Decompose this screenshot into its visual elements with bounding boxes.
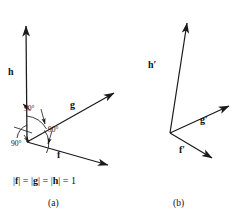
panel-a-graphics (14, 26, 114, 165)
vector-h-prime-line (170, 23, 187, 133)
vector-label-h: h (8, 67, 14, 77)
vector-figure: h g f 90° 90° 90° h′ g′ f′ |f| = |g| = |… (0, 0, 237, 220)
panel-b-graphics (170, 23, 229, 158)
figure-canvas (0, 0, 237, 220)
vector-f-prime-line (170, 133, 212, 158)
angle-cross-tick (14, 127, 32, 133)
angle-label-g-f: 90° (48, 126, 59, 134)
vector-h-line (26, 26, 27, 142)
panel-b-caption: (b) (173, 199, 184, 209)
vector-f-line (27, 142, 108, 165)
vector-label-h-prime: h′ (148, 60, 156, 70)
angle-label-f-h: 90° (11, 140, 22, 148)
norm-caption: |f| = |g| = |h| = 1 (13, 176, 76, 186)
angle-leader-h-g (41, 109, 45, 124)
vector-label-g: g (70, 100, 75, 110)
angle-arc-f-h (17, 125, 27, 138)
panel-a-caption: (a) (48, 199, 59, 209)
vector-label-f-prime: f′ (179, 145, 185, 155)
angle-label-h-g: 90° (24, 105, 35, 113)
vector-label-g-prime: g′ (200, 115, 208, 125)
vector-label-f: f (57, 150, 60, 160)
